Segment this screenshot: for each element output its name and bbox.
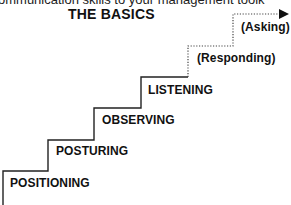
staircase-diagram: ommunication skills to your management t…: [0, 0, 291, 205]
step-label-positioning: POSITIONING: [10, 176, 90, 190]
step-label-asking: (Asking): [241, 20, 290, 34]
step-label-responding: (Responding): [197, 51, 276, 65]
arrow-right-icon: [279, 9, 289, 19]
step-label-observing: OBSERVING: [102, 113, 175, 127]
step-label-listening: LISTENING: [148, 83, 213, 97]
step-label-posturing: POSTURING: [56, 144, 128, 158]
